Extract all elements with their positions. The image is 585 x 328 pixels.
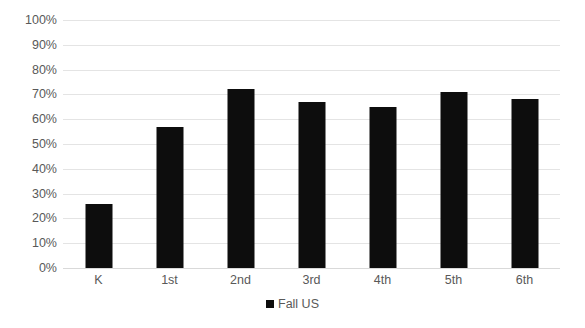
bar-chart: 0%10%20%30%40%50%60%70%80%90%100% K1st2n… xyxy=(0,0,585,328)
legend-label-fall-us: Fall US xyxy=(278,298,319,311)
y-axis-tick-label: 40% xyxy=(5,163,57,176)
bar-group xyxy=(63,20,134,268)
bar xyxy=(85,204,112,268)
x-axis-tick-label: 3rd xyxy=(276,271,347,289)
y-axis-tick-label: 60% xyxy=(5,113,57,126)
y-axis-tick-label: 0% xyxy=(5,262,57,275)
y-axis-tick-label: 10% xyxy=(5,237,57,250)
y-axis-tick-label: 50% xyxy=(5,138,57,151)
y-axis-tick-label: 30% xyxy=(5,187,57,200)
bar-group xyxy=(418,20,489,268)
bar xyxy=(227,89,254,268)
y-axis-tick-label: 100% xyxy=(5,14,57,27)
bar xyxy=(298,102,325,268)
x-axis-tick-label: 4th xyxy=(347,271,418,289)
bar xyxy=(511,99,538,268)
y-axis-tick-label: 20% xyxy=(5,212,57,225)
x-axis-tick-label: 6th xyxy=(489,271,560,289)
y-axis-tick-label: 80% xyxy=(5,63,57,76)
y-axis-tick-label: 90% xyxy=(5,39,57,52)
bar-group xyxy=(134,20,205,268)
x-axis-tick-label: 1st xyxy=(134,271,205,289)
legend-swatch-fall-us xyxy=(266,300,274,308)
y-axis-tick-label: 70% xyxy=(5,88,57,101)
bar-group xyxy=(489,20,560,268)
x-axis: K1st2nd3rd4th5th6th xyxy=(63,271,560,291)
bar-group xyxy=(205,20,276,268)
bar-group xyxy=(276,20,347,268)
gridline xyxy=(63,268,560,269)
chart-legend: Fall US xyxy=(0,298,585,311)
bar xyxy=(369,107,396,268)
bar-group xyxy=(347,20,418,268)
x-axis-tick-label: 2nd xyxy=(205,271,276,289)
bar xyxy=(440,92,467,268)
y-axis: 0%10%20%30%40%50%60%70%80%90%100% xyxy=(0,20,57,268)
bar xyxy=(156,127,183,268)
x-axis-tick-label: 5th xyxy=(418,271,489,289)
plot-area xyxy=(63,20,560,268)
x-axis-tick-label: K xyxy=(63,271,134,289)
